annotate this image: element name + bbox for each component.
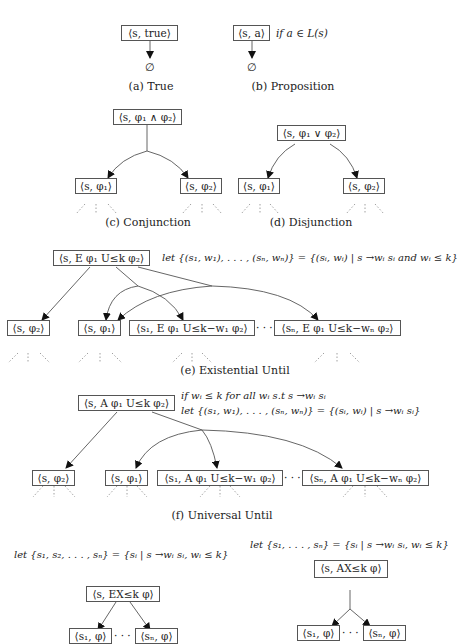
node-proposition: ⟨s, a⟩	[233, 25, 270, 41]
ax-condition: let {s₁, . . . , sₙ} = {sᵢ | s →wᵢ sᵢ, w…	[250, 538, 449, 552]
exist-until-condition: let {(s₁, w₁), . . . , (sₙ, wₙ)} = {(sᵢ,…	[162, 251, 458, 265]
ellipsis: · · ·	[114, 629, 131, 643]
node-exist-until-sn: ⟨sₙ, E φ₁ U≤k−wₙ φ₂⟩	[274, 320, 401, 336]
node-disjunction-child-2: ⟨s, φ₂⟩	[343, 178, 385, 194]
node-univ-until-sn: ⟨sₙ, A φ₁ U≤k−wₙ φ₂⟩	[302, 470, 429, 486]
caption-e: (e) Existential Until	[180, 364, 289, 377]
node-exist-until-root: ⟨s, E φ₁ U≤k φ₂⟩	[53, 250, 150, 266]
node-disjunction-root: ⟨s, φ₁ ∨ φ₂⟩	[277, 125, 346, 141]
proposition-condition: if a ∈ L(s)	[276, 26, 328, 40]
node-univ-until-root: ⟨s, A φ₁ U≤k φ₂⟩	[78, 395, 175, 411]
caption-a: (a) True	[129, 80, 174, 93]
node-ex-root: ⟨s, EX≤k φ⟩	[86, 586, 160, 602]
node-univ-until-phi2: ⟨s, φ₂⟩	[32, 470, 75, 486]
node-ex-child-1: ⟨s₁, φ⟩	[69, 628, 112, 644]
ellipsis: · · ·	[256, 321, 273, 335]
ellipsis: · · ·	[284, 471, 301, 485]
node-univ-until-phi1: ⟨s, φ₁⟩	[105, 470, 148, 486]
node-disjunction-child-1: ⟨s, φ₁⟩	[238, 178, 280, 194]
ellipsis: · · ·	[342, 626, 359, 640]
node-true: ⟨s, true⟩	[121, 25, 178, 41]
empty-set: ∅	[145, 61, 155, 74]
empty-set: ∅	[247, 61, 257, 74]
caption-d: (d) Disjunction	[270, 216, 353, 229]
node-ex-child-n: ⟨sₙ, φ⟩	[135, 628, 178, 644]
node-conjunction-child-2: ⟨s, φ₂⟩	[180, 178, 222, 194]
caption-f: (f) Universal Until	[171, 509, 272, 522]
node-ax-root: ⟨s, AX≤k φ⟩	[314, 560, 388, 578]
node-univ-until-s1: ⟨s₁, A φ₁ U≤k−w₁ φ₂⟩	[157, 470, 283, 486]
ex-condition: let {s₁, s₂, . . . , sₙ} = {sᵢ | s →wᵢ s…	[14, 548, 228, 562]
node-conjunction-child-1: ⟨s, φ₁⟩	[75, 178, 117, 194]
caption-c: (c) Conjunction	[105, 216, 191, 229]
node-exist-until-phi1: ⟨s, φ₁⟩	[78, 320, 121, 336]
node-ax-child-n: ⟨sₙ, φ⟩	[363, 625, 406, 641]
univ-until-condition-2: let {(s₁, w₁), . . . , (sₙ, wₙ)} = {(sᵢ,…	[181, 404, 420, 418]
node-conjunction-root: ⟨s, φ₁ ∧ φ₂⟩	[113, 109, 182, 125]
univ-until-condition-1: if wᵢ ≤ k for all wᵢ s.t s →wᵢ sᵢ	[181, 389, 326, 403]
caption-b: (b) Proposition	[252, 80, 335, 93]
node-exist-until-s1: ⟨s₁, E φ₁ U≤k−w₁ φ₂⟩	[129, 320, 255, 336]
node-ax-child-1: ⟨s₁, φ⟩	[297, 625, 340, 641]
node-exist-until-phi2: ⟨s, φ₂⟩	[7, 320, 50, 336]
